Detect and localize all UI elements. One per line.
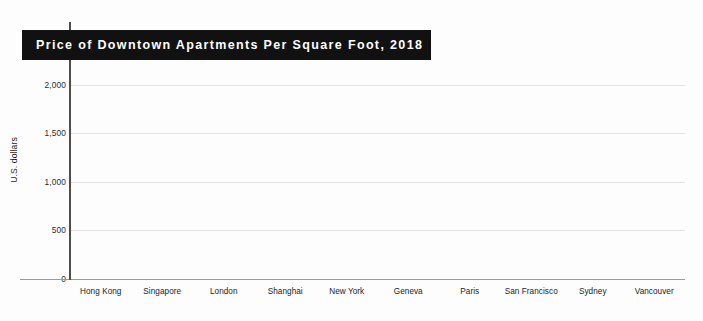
gridline (70, 133, 685, 134)
x-axis-tick-label: Sydney (562, 287, 624, 296)
gridline (70, 85, 685, 86)
x-axis-tick-label: San Francisco (501, 287, 563, 296)
y-axis-line (69, 22, 71, 280)
chart-title-band: Price of Downtown Apartments Per Square … (22, 30, 431, 60)
chart-page: 05001,0001,5002,000 U.S. dollars Hong Ko… (0, 0, 703, 321)
x-axis-tick-label: Hong Kong (70, 287, 132, 296)
chart-title: Price of Downtown Apartments Per Square … (22, 38, 423, 52)
gridline (70, 230, 685, 231)
x-axis-tick-label: Paris (439, 287, 501, 296)
plot-area (70, 22, 685, 279)
y-axis-tick-label: 2,000 (0, 80, 66, 90)
x-axis-tick-label: Shanghai (255, 287, 317, 296)
x-axis-line (20, 279, 685, 280)
x-axis-tick-label: Vancouver (624, 287, 686, 296)
y-axis-title: U.S. dollars (9, 115, 19, 205)
y-axis-tick-label: 500 (0, 225, 66, 235)
gridline (70, 182, 685, 183)
x-axis-tick-label: Singapore (132, 287, 194, 296)
x-axis-tick-label: New York (316, 287, 378, 296)
x-axis-tick-label: London (193, 287, 255, 296)
x-axis-tick-label: Geneva (378, 287, 440, 296)
